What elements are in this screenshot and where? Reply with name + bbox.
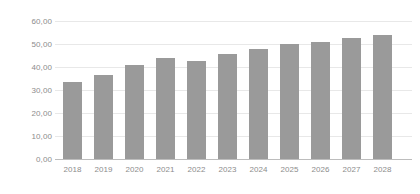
- bar: [187, 61, 206, 159]
- bar-slot: [88, 21, 119, 159]
- x-axis-tick-label: 2022: [181, 165, 212, 174]
- y-axis-tick-label: 0,00: [6, 155, 52, 164]
- bar-slot: [119, 21, 150, 159]
- bar-chart: 0,0010,0020,0030,0040,0050,0060,00 20182…: [0, 0, 420, 194]
- y-axis-tick-label: 60,00: [6, 17, 52, 26]
- bar-slot: [150, 21, 181, 159]
- bar: [342, 38, 361, 159]
- bar-slot: [243, 21, 274, 159]
- x-axis-tick-label: 2023: [212, 165, 243, 174]
- x-axis-tick-label: 2019: [88, 165, 119, 174]
- bar-series: [55, 21, 412, 159]
- x-axis-tick-label: 2018: [57, 165, 88, 174]
- bar-slot: [274, 21, 305, 159]
- x-axis-tick-label: 2020: [119, 165, 150, 174]
- x-axis-tick-label: 2027: [336, 165, 367, 174]
- x-axis-tick-label: 2025: [274, 165, 305, 174]
- bar: [125, 65, 144, 159]
- bar: [156, 58, 175, 159]
- y-axis-tick-label: 10,00: [6, 132, 52, 141]
- y-axis: 0,0010,0020,0030,0040,0050,0060,00: [0, 0, 52, 194]
- bar: [94, 75, 113, 159]
- bar-slot: [57, 21, 88, 159]
- bar: [63, 82, 82, 159]
- y-axis-tick-label: 40,00: [6, 63, 52, 72]
- bar-slot: [181, 21, 212, 159]
- x-axis-tick-label: 2021: [150, 165, 181, 174]
- x-axis-tick-label: 2024: [243, 165, 274, 174]
- bar: [218, 54, 237, 159]
- y-axis-tick-label: 20,00: [6, 109, 52, 118]
- x-axis-line: [55, 159, 412, 160]
- x-axis-tick-label: 2028: [367, 165, 398, 174]
- bar: [280, 44, 299, 159]
- y-axis-tick-label: 30,00: [6, 86, 52, 95]
- bar-slot: [212, 21, 243, 159]
- bar-slot: [336, 21, 367, 159]
- bar-slot: [305, 21, 336, 159]
- y-axis-tick-label: 50,00: [6, 40, 52, 49]
- bar: [311, 42, 330, 159]
- bar: [373, 35, 392, 159]
- bar-slot: [367, 21, 398, 159]
- bar: [249, 49, 268, 159]
- x-axis-tick-label: 2026: [305, 165, 336, 174]
